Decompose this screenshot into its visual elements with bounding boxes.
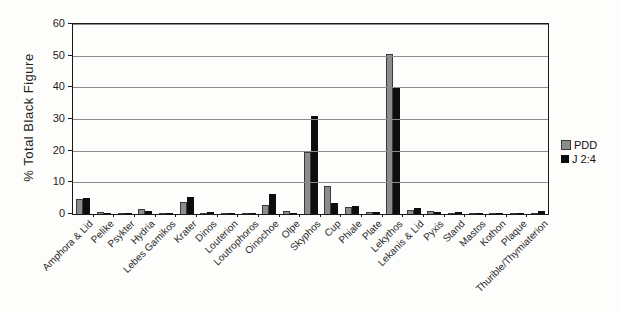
bar bbox=[434, 212, 441, 214]
bar bbox=[510, 213, 517, 214]
x-tick-label: Phiale bbox=[214, 218, 363, 312]
bar bbox=[455, 212, 462, 214]
x-tick-mark bbox=[299, 214, 300, 217]
bar bbox=[228, 213, 235, 214]
legend-item: J 2:4 bbox=[561, 153, 597, 165]
x-tick-mark bbox=[175, 214, 176, 217]
x-tick-mark bbox=[134, 214, 135, 217]
bar bbox=[331, 203, 338, 214]
bar bbox=[83, 198, 90, 214]
bar bbox=[531, 213, 538, 214]
x-tick-label: Stand bbox=[318, 218, 467, 312]
y-tick-label: 60 bbox=[35, 17, 65, 29]
y-tick-label: 0 bbox=[35, 207, 65, 219]
bar bbox=[145, 211, 152, 214]
legend-label: J 2:4 bbox=[572, 153, 596, 165]
bar bbox=[517, 213, 524, 214]
bar-chart: % Total Black Figure Amphora & LidPelike… bbox=[0, 0, 619, 312]
bar bbox=[200, 213, 207, 214]
x-tick-label: Plaque bbox=[380, 218, 529, 312]
y-tick-mark bbox=[68, 55, 72, 56]
x-tick-mark bbox=[93, 214, 94, 217]
y-tick-label: 10 bbox=[35, 175, 65, 187]
bar bbox=[290, 213, 297, 214]
legend-swatch bbox=[561, 155, 569, 163]
gridline bbox=[73, 119, 548, 120]
y-tick-label: 50 bbox=[35, 49, 65, 61]
x-tick-label: Dinos bbox=[70, 218, 219, 312]
x-tick-mark bbox=[382, 214, 383, 217]
bar bbox=[159, 213, 166, 214]
bar bbox=[366, 212, 373, 214]
bar bbox=[496, 213, 503, 214]
bar bbox=[118, 213, 125, 214]
x-tick-label: Psykter bbox=[0, 218, 136, 312]
legend-swatch bbox=[561, 140, 571, 150]
bar bbox=[269, 194, 276, 214]
x-tick-label: Krater bbox=[49, 218, 198, 312]
bar bbox=[469, 213, 476, 214]
x-tick-label: Hydria bbox=[8, 218, 157, 312]
x-tick-mark bbox=[464, 214, 465, 217]
bar bbox=[138, 209, 145, 214]
y-tick-label: 20 bbox=[35, 144, 65, 156]
x-tick-mark bbox=[402, 214, 403, 217]
x-tick-mark bbox=[423, 214, 424, 217]
bar bbox=[187, 197, 194, 214]
x-tick-mark bbox=[506, 214, 507, 217]
bar bbox=[414, 208, 421, 214]
legend-item: PDD bbox=[561, 139, 597, 151]
x-tick-label: Kothon bbox=[359, 218, 508, 312]
bar bbox=[207, 212, 214, 214]
bar bbox=[538, 211, 545, 214]
x-tick-mark bbox=[279, 214, 280, 217]
x-tick-label: Lebes Gamikos bbox=[29, 218, 178, 312]
x-tick-label: Lekanis & Lid bbox=[276, 218, 425, 312]
x-tick-label: Skyphos bbox=[173, 218, 322, 312]
x-tick-label: Oinochoe bbox=[132, 218, 281, 312]
y-tick-mark bbox=[68, 86, 72, 87]
bar bbox=[345, 207, 352, 214]
x-tick-mark bbox=[340, 214, 341, 217]
x-tick-mark bbox=[155, 214, 156, 217]
bar bbox=[180, 202, 187, 214]
x-tick-mark bbox=[217, 214, 218, 217]
y-tick-label: 40 bbox=[35, 80, 65, 92]
gridline bbox=[73, 24, 548, 25]
bar bbox=[324, 186, 331, 214]
bar bbox=[104, 213, 111, 214]
x-tick-label: Lekythos bbox=[256, 218, 405, 312]
x-tick-label: Mastos bbox=[338, 218, 487, 312]
bar bbox=[407, 210, 414, 214]
gridline bbox=[73, 182, 548, 183]
x-tick-label: Loutrophoros bbox=[111, 218, 260, 312]
y-tick-mark bbox=[68, 150, 72, 151]
x-tick-mark bbox=[361, 214, 362, 217]
bar bbox=[76, 199, 83, 214]
x-tick-label: Olpe bbox=[152, 218, 301, 312]
bar bbox=[489, 213, 496, 214]
x-tick-mark bbox=[113, 214, 114, 217]
x-tick-label: Pelike bbox=[0, 218, 116, 312]
x-tick-label: Cup bbox=[194, 218, 343, 312]
x-tick-label: Thurible/Thymiaterion bbox=[400, 218, 549, 312]
x-tick-label: Pyxis bbox=[297, 218, 446, 312]
bar bbox=[386, 54, 393, 214]
bar bbox=[448, 213, 455, 214]
plot-area bbox=[72, 23, 549, 215]
y-tick-label: 30 bbox=[35, 112, 65, 124]
bar bbox=[221, 213, 228, 214]
x-tick-label: Amphora & Lid bbox=[0, 218, 95, 312]
x-tick-mark bbox=[444, 214, 445, 217]
bar bbox=[352, 206, 359, 214]
x-tick-mark bbox=[258, 214, 259, 217]
legend-label: PDD bbox=[574, 139, 597, 151]
x-tick-mark bbox=[196, 214, 197, 217]
x-tick-mark bbox=[320, 214, 321, 217]
y-tick-mark bbox=[68, 213, 72, 214]
bar bbox=[311, 116, 318, 214]
x-tick-mark bbox=[485, 214, 486, 217]
x-tick-mark bbox=[526, 214, 527, 217]
y-axis-title: % Total Black Figure bbox=[21, 28, 36, 208]
bar bbox=[166, 213, 173, 214]
